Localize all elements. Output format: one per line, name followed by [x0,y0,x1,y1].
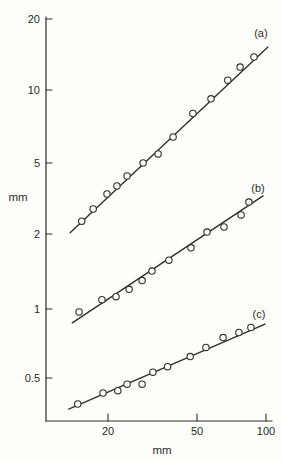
series-c-point [75,401,81,407]
series-a-fit-line [70,47,268,233]
series-b-point [113,294,119,300]
series-b-point [126,286,132,292]
y-tick-label: 1 [34,303,40,315]
series-b-point [204,229,210,235]
y-tick-label: 20 [28,13,40,25]
series-a-label: (a) [254,27,267,39]
series-a-point [155,151,161,157]
series-a-point [104,191,110,197]
series-a-point [124,173,130,179]
x-tick-label: 20 [102,425,114,437]
series-a-point [114,183,120,189]
series-a-point [237,64,243,70]
series-a-point [225,77,231,83]
series-c-point [187,353,193,359]
y-tick-label: 0.5 [25,372,40,384]
y-axis-label: mm [8,191,27,203]
series-a-point [170,134,176,140]
y-tick-label: 5 [34,157,40,169]
x-axis-label: mm [152,444,171,456]
log-log-scatter-figure: 20105210.52050100(a)(b)(c) mm mm [0,0,282,461]
y-tick-label: 10 [28,84,40,96]
series-c-point [150,369,156,375]
series-b-point [149,268,155,274]
series-b-point [246,199,252,205]
series-a-point [208,96,214,102]
series-c-point [100,390,106,396]
series-a-point [90,206,96,212]
series-c-label: (c) [253,308,266,320]
series-c-point [124,381,130,387]
chart-canvas: 20105210.52050100(a)(b)(c) [0,0,282,461]
series-a-point [79,218,85,224]
series-c-point [220,334,226,340]
series-b-point [76,309,82,315]
series-c-point [236,329,242,335]
y-tick-label: 2 [34,228,40,240]
series-b-point [166,257,172,263]
series-a-point [251,54,257,60]
series-b-point [188,245,194,251]
series-c-point [248,324,254,330]
series-b-point [221,224,227,230]
series-c-point [139,381,145,387]
series-c-point [203,344,209,350]
series-b-point [139,277,145,283]
series-c-point [164,364,170,370]
series-b-point [238,212,244,218]
x-tick-label: 50 [191,425,203,437]
series-a-point [140,160,146,166]
series-c-point [115,388,121,394]
series-a-point [190,110,196,116]
series-b-label: (b) [251,182,264,194]
series-b-point [99,297,105,303]
x-tick-label: 100 [257,425,275,437]
